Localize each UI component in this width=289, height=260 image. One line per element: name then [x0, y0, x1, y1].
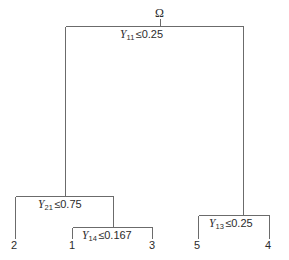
leaf-node-3: 3	[149, 240, 155, 251]
split-condition-right: Y13≤0.25	[207, 218, 255, 231]
split-value: 0.75	[60, 198, 81, 210]
split-value: 0.167	[104, 229, 132, 241]
split-subscript: 11	[126, 33, 134, 42]
leaf-node-2: 2	[11, 240, 17, 251]
split-value: 0.25	[142, 28, 163, 40]
decision-tree-figure: Ω Y11≤0.25 Y21≤0.75 Y14≤0.167 Y13≤0.25 2…	[0, 0, 289, 260]
split-subscript: 14	[88, 234, 97, 243]
leaf-node-1: 1	[69, 240, 75, 251]
root-node-label: Ω	[155, 7, 164, 19]
split-subscript: 21	[44, 203, 53, 212]
split-subscript: 13	[215, 222, 224, 231]
split-condition-root: Y11≤0.25	[118, 29, 165, 42]
split-condition-left: Y21≤0.75	[36, 199, 84, 212]
leaf-node-4: 4	[265, 240, 271, 251]
split-value: 0.25	[231, 217, 252, 229]
split-condition-inner: Y14≤0.167	[80, 230, 134, 243]
leaf-node-5: 5	[194, 240, 200, 251]
